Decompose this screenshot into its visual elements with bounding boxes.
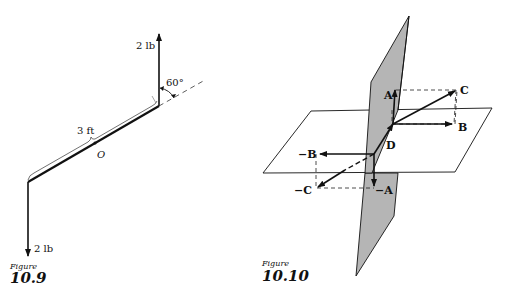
label-A: A (383, 89, 393, 102)
label-B: B (458, 121, 467, 134)
figure-10-10: A B C D −A −B −C Figure 10.10 (261, 16, 492, 285)
length-label: 3 ft (77, 125, 94, 136)
angle-arrow-head (160, 86, 164, 91)
label-D: D (386, 139, 396, 152)
corner-tick (152, 96, 156, 103)
rod (28, 106, 159, 182)
angle-label: 60° (166, 77, 184, 88)
pivot-label: O (97, 149, 105, 160)
label-neg-B: −B (298, 148, 317, 161)
figure-caption-number: 10.9 (10, 269, 47, 287)
pivot-point (94, 142, 97, 145)
label-neg-C: −C (294, 184, 312, 197)
label-neg-A: −A (375, 184, 393, 197)
figures-canvas: 2 lb 60° 3 ft O 2 lb Figure 10.9 (0, 0, 512, 307)
force-top-label: 2 lb (136, 40, 155, 51)
length-brace (28, 101, 157, 180)
label-C: C (460, 84, 469, 97)
figure-caption-number: 10.10 (262, 267, 310, 285)
force-bottom-label: 2 lb (34, 243, 53, 254)
figure-10-9: 2 lb 60° 3 ft O 2 lb Figure 10.9 (9, 34, 205, 287)
